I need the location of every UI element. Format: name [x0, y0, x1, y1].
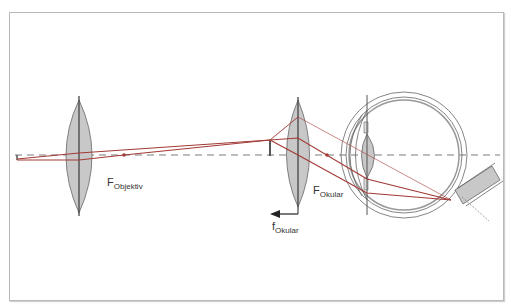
eye [341, 92, 503, 221]
focal-length-arrow [270, 209, 298, 218]
label-f-okular: FOkular [313, 184, 343, 199]
eyepiece-lens [287, 97, 310, 209]
label-focal-length-sub: Okular [275, 226, 299, 235]
label-f-objektiv-sub: Objektiv [114, 182, 143, 191]
ray-diagram [0, 0, 511, 307]
label-f-objektiv: FObjektiv [107, 176, 143, 191]
label-f-okular-sub: Okular [320, 190, 344, 199]
label-f-objektiv-main: F [107, 176, 114, 188]
label-f-okular-main: F [313, 184, 320, 196]
label-focal-length-okular: fOkular [272, 220, 299, 235]
objective-lens [66, 96, 92, 216]
